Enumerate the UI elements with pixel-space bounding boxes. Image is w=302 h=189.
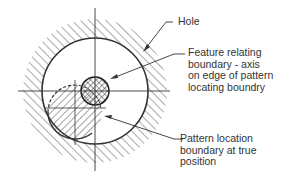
pattern-location-boundary-label: Pattern location boundary at true positi… <box>180 133 256 168</box>
feature-label-line: on edge of pattern <box>188 70 273 82</box>
feature-label-line: locating boundry <box>188 82 273 94</box>
feature-label-line: Feature relating <box>188 47 273 59</box>
pattern-label-line: Pattern location <box>180 133 256 145</box>
feature-relating-boundary-label: Feature relating boundary - axis on edge… <box>188 47 273 93</box>
position-tolerance-diagram <box>0 0 302 189</box>
pattern-label-line: position <box>180 156 256 168</box>
hole-label: Hole <box>178 16 200 28</box>
